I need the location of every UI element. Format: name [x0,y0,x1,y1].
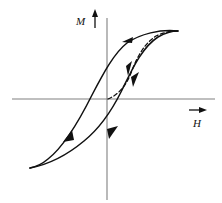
virgin-curve [108,31,178,99]
arrow-upper-descending-icon [122,37,133,43]
magnetization-axis-label: M [75,15,86,27]
hysteresis-figure: M H [0,0,222,203]
hysteresis-plot: M H [0,0,222,203]
arrow-lower-ascending-icon [107,126,118,139]
arrow-lower-descending-icon [63,130,74,142]
arrow-upper-ascending-icon [131,72,139,87]
magnetization-axis-arrow-icon [92,9,98,28]
field-axis-label: H [192,117,202,129]
field-axis-arrow-icon [189,107,207,113]
